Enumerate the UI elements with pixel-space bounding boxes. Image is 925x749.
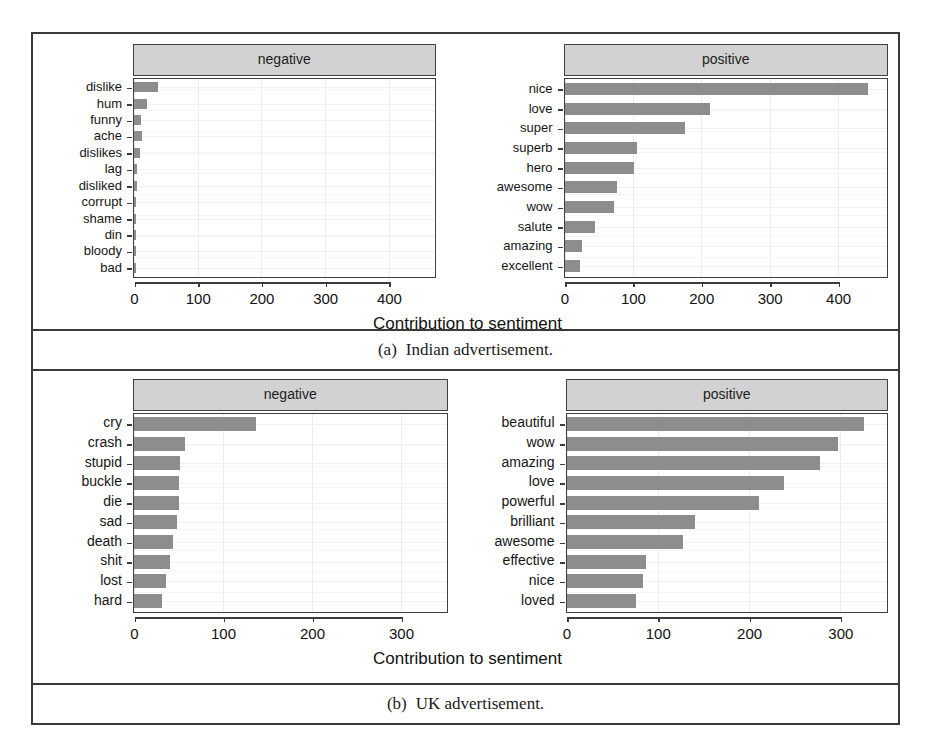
y-axis-tick (127, 562, 132, 564)
y-axis-label: shit (100, 554, 122, 567)
x-axis-tick-label: 400 (826, 290, 851, 307)
x-axis-tick (841, 617, 843, 622)
y-axis-tick (558, 109, 563, 111)
x-axis-tick-label: 100 (621, 290, 646, 307)
strip-label-b-positive: positive (566, 379, 889, 411)
y-axis-tick (127, 186, 132, 188)
x-axis-tick-label: 0 (130, 625, 138, 642)
y-axis-label: amazing (503, 239, 552, 252)
bar (134, 437, 185, 451)
bar (134, 82, 158, 92)
gridline-horizontal (134, 503, 447, 504)
y-axis-tick (127, 203, 132, 205)
gridline-horizontal (134, 522, 447, 523)
x-axis-tick (326, 282, 328, 287)
bar (567, 417, 865, 431)
scan-artifact (567, 550, 888, 551)
x-axis-tick-label: 400 (377, 290, 402, 307)
caption-subfigure-a: (a)Indian advertisement. (33, 329, 898, 369)
y-axis-tick (558, 148, 563, 150)
plot-area-a: negative dislikehumfunnyachedislikeslagd… (33, 34, 898, 331)
bar (134, 230, 136, 240)
bar (567, 574, 644, 588)
y-axis-label: bloody (84, 244, 122, 257)
y-axis-tick (127, 88, 132, 90)
gridline-horizontal (134, 120, 435, 121)
caption-subfigure-b: (b)UK advertisement. (33, 683, 898, 723)
panel-a-positive (564, 78, 889, 278)
x-axis-tick-label: 200 (249, 290, 274, 307)
y-axis-label: wow (526, 436, 554, 449)
bar (565, 83, 868, 95)
strip-text: positive (702, 51, 749, 67)
x-axis-tick-label: 100 (186, 290, 211, 307)
bar (565, 201, 614, 213)
y-axis-label: din (105, 228, 122, 241)
gridline-horizontal (134, 562, 447, 563)
x-axis-tick (262, 282, 264, 287)
y-axis-label: awesome (495, 535, 555, 548)
x-axis-tick (224, 617, 226, 622)
y-axis-tick (127, 252, 132, 254)
gridline-horizontal (134, 463, 447, 464)
x-axis-tick-label: 0 (563, 625, 571, 642)
y-axis-label: hero (526, 161, 552, 174)
bar (134, 496, 179, 510)
y-axis-label: buckle (82, 475, 122, 488)
x-axis-tick-label: 300 (828, 625, 853, 642)
y-axis-label: crash (88, 436, 122, 449)
gridline-horizontal (134, 235, 435, 236)
gridline-horizontal (134, 186, 435, 187)
y-axis-tick (560, 503, 565, 505)
bar (565, 162, 634, 174)
x-axis-tick (839, 282, 841, 287)
y-axis-tick (127, 602, 132, 604)
y-axis-label: hum (97, 97, 122, 110)
y-axis-label: effective (503, 554, 555, 567)
x-axis-tick (658, 617, 660, 622)
scan-artifact (134, 592, 447, 593)
x-axis-tick-label: 0 (130, 290, 138, 307)
x-axis-tick (389, 282, 391, 287)
facet-a-negative: negative dislikehumfunnyachedislikeslagd… (33, 34, 466, 331)
gridline-horizontal (134, 87, 435, 88)
y-axis-tick (558, 89, 563, 91)
bar (134, 115, 141, 125)
y-axis-tick (558, 168, 563, 170)
bar (567, 476, 784, 490)
y-axis-tick (127, 268, 132, 270)
bar (565, 181, 618, 193)
x-axis-tick (702, 282, 704, 287)
bar (567, 515, 696, 529)
y-axis-tick (127, 444, 132, 446)
y-axis-tick (558, 129, 563, 131)
gridline-horizontal (134, 251, 435, 252)
gridline-horizontal (134, 219, 435, 220)
scan-artifact (134, 508, 447, 509)
bar (134, 148, 140, 158)
caption-number: (a) (378, 340, 397, 359)
y-axis-tick (127, 543, 132, 545)
y-axis-label: brilliant (510, 515, 554, 528)
bar (567, 437, 838, 451)
x-axis-tick (633, 282, 635, 287)
bar (134, 535, 173, 549)
x-axis-tick (198, 282, 200, 287)
y-axis-label: nice (529, 82, 553, 95)
gridline-vertical (389, 79, 390, 277)
caption-text: UK advertisement. (416, 694, 544, 713)
strip-label-a-negative: negative (133, 44, 436, 76)
bar (134, 263, 136, 273)
bar (567, 496, 760, 510)
y-axis-label: cry (103, 416, 122, 429)
y-axis-tick (560, 483, 565, 485)
gridline-vertical (325, 79, 326, 277)
y-axis-tick (560, 582, 565, 584)
y-axis-label: dislike (86, 80, 122, 93)
y-axis-tick (560, 444, 565, 446)
y-axis-label: excellent (501, 259, 552, 272)
x-axis-tick (313, 617, 315, 622)
gridline-horizontal (134, 268, 435, 269)
x-axis-tick-label: 200 (300, 625, 325, 642)
bar (134, 214, 136, 224)
